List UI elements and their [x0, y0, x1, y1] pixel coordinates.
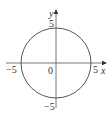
circle-diagram: y 5 −5 0 5 x −5: [0, 0, 112, 115]
x-axis-label: x: [100, 65, 106, 76]
x-tick-pos: 5: [93, 64, 98, 75]
x-tick-neg: −5: [6, 64, 17, 75]
origin-label: 0: [48, 65, 53, 76]
y-tick-pos: 5: [49, 18, 54, 29]
y-tick-neg: −5: [44, 101, 55, 112]
